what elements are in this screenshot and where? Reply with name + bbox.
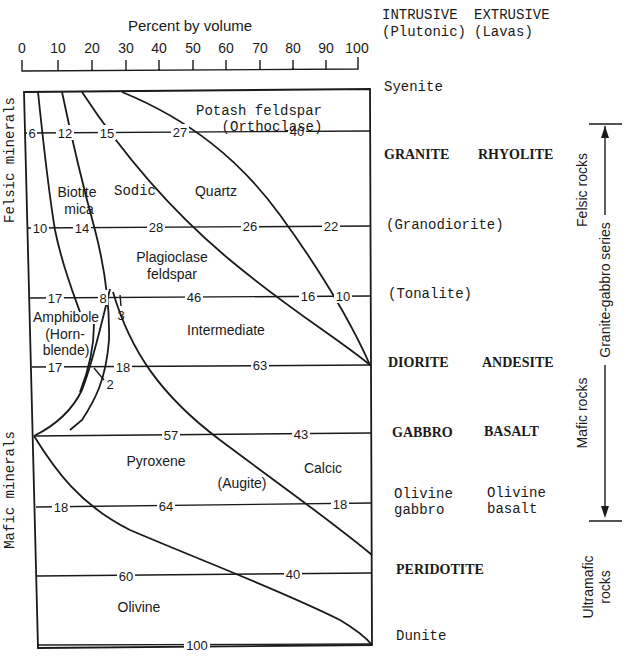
rock-olivine-gabbro-line1: Olivine bbox=[394, 486, 453, 502]
rock-tonalite: (Tonalite) bbox=[388, 286, 472, 302]
mineral-label-augite: (Augite) bbox=[217, 475, 266, 491]
rock-andesite: ANDESITE bbox=[482, 355, 554, 370]
rock-dunite: Dunite bbox=[396, 628, 446, 644]
mineral-label-mica: mica bbox=[64, 201, 94, 217]
value-label: 14 bbox=[75, 221, 89, 236]
row-line-diorite bbox=[32, 365, 371, 367]
scale-tick-label: 10 bbox=[50, 40, 66, 56]
value-label: 10 bbox=[336, 289, 350, 304]
value-label: 17 bbox=[48, 360, 62, 375]
scale-tick-label: 40 bbox=[151, 40, 167, 56]
value-label: 8 bbox=[99, 291, 106, 306]
extrusive-subheader: (Lavas) bbox=[474, 24, 533, 40]
felsic-minerals-label: Felsic minerals bbox=[2, 97, 18, 223]
box-frame bbox=[24, 89, 372, 648]
granite-gabbro-series-label: Granite-gabbro series bbox=[597, 222, 613, 357]
diagram-box bbox=[24, 89, 372, 648]
felsic-rocks-label: Felsic rocks bbox=[574, 153, 590, 227]
mineral-label-biotite: Biotite bbox=[58, 184, 97, 200]
intrusive-subheader: (Plutonic) bbox=[382, 24, 466, 40]
rock-olivine-basalt-line2: basalt bbox=[487, 501, 537, 517]
leader-line-2 bbox=[94, 368, 104, 380]
scale-tick-label: 50 bbox=[185, 40, 201, 56]
rock-names: Syenite GRANITE RHYOLITE (Granodiorite) … bbox=[384, 79, 554, 644]
value-label: 10 bbox=[33, 221, 47, 236]
mineral-label-amphibole: Amphibole bbox=[33, 309, 99, 325]
mineral-labels: Potash feldspar Biotite mica Sodic Quart… bbox=[33, 103, 342, 615]
mineral-label-feldspar: feldspar bbox=[147, 266, 197, 282]
leader-line-3 bbox=[120, 295, 121, 306]
value-label: 15 bbox=[100, 126, 114, 141]
scale-axis-line bbox=[22, 57, 358, 71]
ultramafic-label: Ultramafic bbox=[580, 555, 596, 618]
row-line-gabbro bbox=[34, 433, 371, 436]
rock-diorite: DIORITE bbox=[388, 355, 449, 370]
value-label: 18 bbox=[116, 360, 130, 375]
row-line-peridotite bbox=[37, 573, 372, 576]
value-label: 43 bbox=[294, 427, 308, 442]
scale-tick-label: 80 bbox=[285, 40, 301, 56]
ultramafic-rocks-label: rocks bbox=[597, 570, 613, 603]
intrusive-header: INTRUSIVE bbox=[382, 7, 458, 23]
arrow-down-icon bbox=[601, 506, 609, 518]
rock-rhyolite: RHYOLITE bbox=[478, 147, 553, 162]
value-label: 46 bbox=[187, 290, 201, 305]
scale-tick-label: 60 bbox=[218, 40, 234, 56]
value-label: 60 bbox=[119, 569, 133, 584]
value-label: 28 bbox=[149, 220, 163, 235]
value-label: 100 bbox=[186, 638, 208, 653]
value-label: 26 bbox=[243, 219, 257, 234]
series-brackets: Felsic rocks Granite-gabbro series Mafic… bbox=[574, 124, 622, 619]
scale-title: Percent by volume bbox=[128, 17, 252, 34]
rock-granite: GRANITE bbox=[384, 147, 449, 162]
mineral-label-olivine: Olivine bbox=[118, 599, 161, 615]
mineral-label-potash-feldspar: Potash feldspar bbox=[196, 103, 322, 119]
column-headers: INTRUSIVE (Plutonic) EXTRUSIVE (Lavas) bbox=[382, 7, 550, 40]
mineral-label-horn: (Horn- bbox=[45, 326, 85, 342]
value-label: 2 bbox=[106, 377, 113, 392]
mafic-minerals-label: Mafic minerals bbox=[2, 431, 18, 549]
mineral-label-calcic: Calcic bbox=[304, 460, 342, 476]
scale-tick-label: 0 bbox=[18, 40, 26, 56]
mineral-label-intermediate: Intermediate bbox=[187, 322, 265, 338]
igneous-rock-classification-diagram: Percent by volume 0 10 20 30 40 50 60 70… bbox=[0, 0, 628, 671]
rock-granodiorite: (Granodiorite) bbox=[386, 217, 504, 233]
row-line-olivine-gabbro bbox=[36, 503, 372, 507]
scale-tick-label: 90 bbox=[318, 40, 334, 56]
percent-scale: Percent by volume 0 10 20 30 40 50 60 70… bbox=[18, 17, 369, 71]
mineral-label-quartz: Quartz bbox=[195, 183, 237, 199]
mineral-label-orthoclase: (Orthoclase) bbox=[222, 119, 323, 135]
mafic-rocks-label: Mafic rocks bbox=[574, 378, 590, 449]
arrow-up-icon bbox=[601, 126, 609, 138]
value-label: 12 bbox=[58, 126, 72, 141]
scale-tick-label: 100 bbox=[345, 40, 369, 56]
scale-tick-label: 20 bbox=[84, 40, 100, 56]
mineral-boundaries bbox=[34, 92, 372, 645]
mineral-label-pyroxene: Pyroxene bbox=[126, 453, 185, 469]
value-label: 3 bbox=[117, 308, 124, 323]
value-label: 22 bbox=[324, 219, 338, 234]
rock-olivine-gabbro-line2: gabbro bbox=[394, 502, 444, 518]
rock-gabbro: GABBRO bbox=[392, 425, 453, 440]
value-label: 64 bbox=[159, 499, 173, 514]
rock-syenite: Syenite bbox=[384, 79, 443, 95]
mineral-label-plagioclase: Plagioclase bbox=[136, 249, 208, 265]
value-label: 17 bbox=[48, 291, 62, 306]
value-label: 40 bbox=[286, 567, 300, 582]
value-label: 6 bbox=[28, 126, 35, 141]
rock-olivine-basalt-line1: Olivine bbox=[487, 485, 546, 501]
rock-basalt: BASALT bbox=[484, 424, 539, 439]
mineral-label-blende: blende) bbox=[43, 342, 90, 358]
value-label: 27 bbox=[173, 125, 187, 140]
value-label: 57 bbox=[164, 428, 178, 443]
scale-tick-label: 30 bbox=[118, 40, 134, 56]
rock-peridotite: PERIDOTITE bbox=[396, 562, 484, 577]
scale-tick-label: 70 bbox=[252, 40, 268, 56]
value-label: 18 bbox=[333, 497, 347, 512]
value-label: 63 bbox=[253, 358, 267, 373]
value-label: 16 bbox=[301, 289, 315, 304]
mineral-label-sodic: Sodic bbox=[114, 183, 156, 199]
value-label: 18 bbox=[54, 500, 68, 515]
extrusive-header: EXTRUSIVE bbox=[474, 7, 550, 23]
